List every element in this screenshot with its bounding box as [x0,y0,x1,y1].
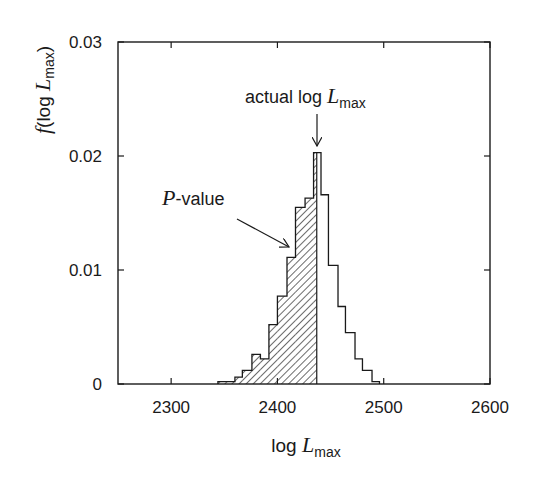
hatched-bin [295,207,305,384]
actual-value-annotation: actual log Lmax [245,83,366,111]
histogram-chart: 2300240025002600 00.010.020.03 f(log Lma… [0,0,538,491]
hatched-bin [252,354,261,384]
x-axis-label: log Lmax [271,432,340,460]
y-tick-label: 0.02 [69,147,102,166]
y-axis-label: f(log Lmax) [30,46,57,134]
y-tick-label: 0 [93,375,102,394]
hatched-bin [242,370,252,384]
hatched-bin [305,198,314,384]
hatched-bin [235,377,242,384]
y-tick-labels: 00.010.020.03 [69,33,102,394]
hatched-bin [277,296,287,384]
y-tick-label: 0.03 [69,33,102,52]
p-value-arrow [237,219,289,247]
x-tick-labels: 2300240025002600 [152,398,509,417]
y-tick-label: 0.01 [69,261,102,280]
x-tick-label: 2600 [471,398,509,417]
x-tick-label: 2500 [365,398,403,417]
p-value-shaded-area [218,153,317,384]
x-tick-label: 2400 [259,398,297,417]
hatched-bin [260,359,269,384]
x-tick-label: 2300 [152,398,190,417]
hatched-bin [269,325,278,384]
hatched-bin [287,257,296,384]
p-value-annotation: P-value [161,185,224,210]
